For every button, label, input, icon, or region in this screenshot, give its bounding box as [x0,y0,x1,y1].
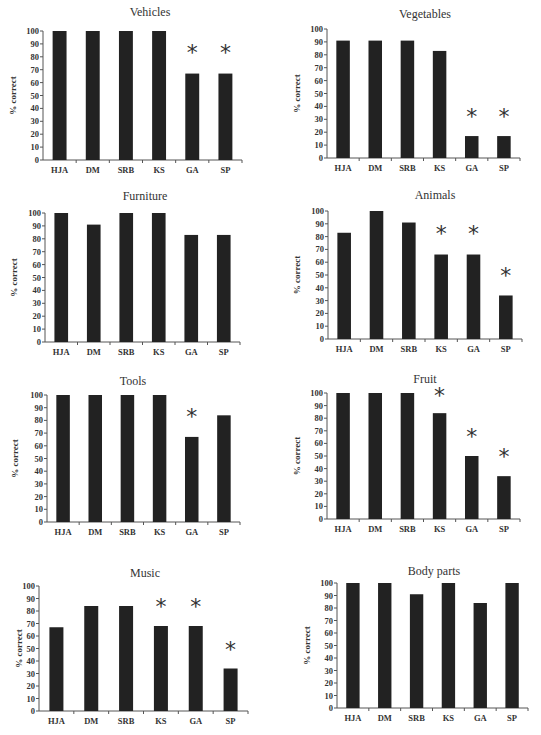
significance-asterisk-icon: * [498,444,509,469]
bar-ga [465,456,479,519]
x-category-label: SRB [399,163,416,173]
y-tick-label: 70 [325,616,334,626]
y-tick-label: 0 [320,334,324,344]
x-category-label: DM [86,165,100,175]
x-category-label: GA [465,524,479,534]
x-category-label: GA [474,713,488,723]
y-tick-label: 70 [316,244,325,254]
x-category-label: SRB [118,165,135,175]
bar-dm [378,583,391,708]
bar-ks [434,255,448,339]
x-category-label: KS [434,163,446,173]
bar-dm [86,31,100,160]
bar-srb [119,606,133,711]
bar-ks [153,395,167,522]
bar-ga [189,626,203,711]
bar-ga [184,235,198,342]
y-tick-label: 50 [33,273,42,283]
y-tick-label: 70 [31,65,40,75]
significance-asterisk-icon: * [468,221,479,246]
significance-asterisk-icon: * [155,594,166,619]
bar-ga [465,136,479,158]
y-tick-label: 90 [315,37,324,47]
y-tick-label: 0 [35,155,39,165]
bar-sp [499,295,513,339]
y-tick-label: 0 [39,517,43,527]
chart-panel-vegetables: Vegetables% correct010203040506070809010… [270,0,541,180]
x-category-label: SRB [401,344,418,354]
x-category-label: HJA [344,713,362,723]
y-tick-label: 50 [315,89,324,99]
y-tick-label: 70 [315,426,324,436]
y-tick-label: 40 [316,283,325,293]
significance-asterisk-icon: * [500,263,511,288]
bars [49,606,237,711]
chart-panel-music: Music% correct0102030405060708090100HJAD… [0,545,270,735]
x-category-label: DM [369,344,383,354]
chart-panel-vehicles: Vehicles% correct0102030405060708090100H… [0,0,270,180]
y-tick-label: 10 [315,140,324,150]
y-tick-label: 50 [316,270,325,280]
x-category-label: GA [189,716,203,726]
bar-sp [497,136,511,158]
y-tick-label: 40 [35,466,44,476]
y-tick-label: 70 [315,63,324,73]
x-category-label: DM [368,163,382,173]
y-tick-label: 80 [325,603,334,613]
bar-srb [121,395,135,522]
x-category-label: HJA [55,527,73,537]
y-tick-label: 70 [33,247,42,257]
y-tick-label: 60 [315,438,324,448]
y-tick-label: 20 [31,129,40,139]
x-category-label: GA [467,344,481,354]
y-tick-label: 20 [316,308,325,318]
y-tick-label: 50 [315,451,324,461]
y-tick-label: 80 [35,415,44,425]
bar-sp [217,235,231,342]
y-tick-label: 50 [35,454,44,464]
y-tick-label: 80 [33,234,42,244]
bar-dm [370,211,384,339]
y-axis-label: % correct [10,439,20,478]
x-category-label: HJA [335,163,353,173]
y-tick-label: 60 [325,628,334,638]
y-tick-label: 20 [315,489,324,499]
bar-hja [336,393,350,519]
y-tick-label: 30 [315,114,324,124]
y-tick-label: 100 [311,206,324,216]
y-tick-label: 40 [31,103,40,113]
y-tick-label: 50 [325,641,334,651]
chart-title: Vegetables [399,7,451,21]
y-tick-label: 90 [325,591,334,601]
bar-ga [467,255,481,339]
chart-title: Body parts [408,564,461,578]
y-tick-label: 100 [320,578,333,588]
x-category-label: SRB [118,716,135,726]
y-tick-label: 20 [27,681,36,691]
x-category-label: KS [154,527,166,537]
y-tick-label: 60 [315,76,324,86]
x-category-label: GA [185,527,199,537]
bar-sp [497,476,511,519]
x-category-label: HJA [51,165,69,175]
significance-asterisk-icon: * [220,40,231,65]
x-category-label: DM [84,716,98,726]
y-tick-label: 60 [31,78,40,88]
y-tick-label: 80 [315,50,324,60]
y-axis-label: % correct [8,76,18,115]
x-category-label: SP [501,344,511,354]
y-axis-label: % correct [292,437,302,476]
bar-hja [346,583,359,708]
y-tick-label: 40 [325,653,334,663]
bar-dm [84,606,98,711]
chart-panel-body-parts: Body parts% correct010203040506070809010… [270,545,541,735]
significance-asterisk-icon: * [498,104,509,129]
chart-title: Animals [415,188,456,202]
y-tick-label: 0 [319,514,323,524]
chart-panel-animals: Animals% correct0102030405060708090100HJ… [270,180,541,360]
x-category-label: KS [434,524,446,534]
y-tick-label: 40 [315,464,324,474]
bar-srb [410,594,423,708]
x-category-label: SRB [408,713,425,723]
y-tick-label: 80 [316,232,325,242]
